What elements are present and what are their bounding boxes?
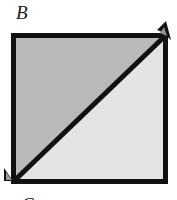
figure-container: B C bbox=[0, 0, 177, 200]
square-with-diagonal-diagram bbox=[0, 0, 177, 200]
figure-label-c-partial: C bbox=[21, 194, 34, 200]
